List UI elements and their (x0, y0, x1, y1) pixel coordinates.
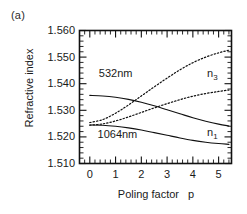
curve-annotations: 532nm1064nmn3n1 (98, 67, 219, 141)
axis-ticks (80, 31, 232, 164)
curve-n3-at-532nm (90, 50, 229, 122)
series-label: n3 (207, 67, 218, 82)
curve-n1-at-532nm (90, 95, 229, 126)
plot-canvas: 532nm1064nmn3n1 (0, 0, 247, 214)
wavelength-label: 532nm (99, 67, 133, 79)
figure-panel-a: (a) Refractive index Poling factorp 1.51… (0, 0, 247, 214)
axes-frame (80, 31, 232, 164)
series-label: n1 (207, 126, 218, 141)
wavelength-label: 1064nm (98, 128, 138, 140)
